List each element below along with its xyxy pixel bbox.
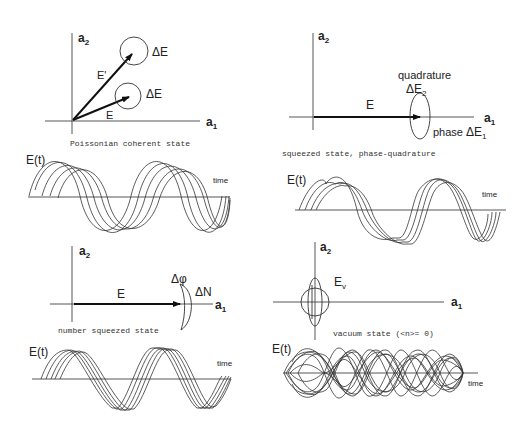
uncertainty-circle-lower — [115, 83, 141, 109]
time-label: time — [482, 190, 498, 199]
ev-label: Ev — [334, 275, 346, 291]
a2-axis-label: a2 — [78, 31, 90, 47]
time-label: time — [213, 176, 229, 185]
a2-axis-label: a2 — [320, 240, 332, 256]
quantum-states-diagram: a2 a1 ΔE E' ΔE E Poissonian coherent sta… — [0, 0, 523, 432]
panel-number-squeezed: a2 a1 E Δφ ΔN number squeezed state E(t)… — [29, 244, 233, 410]
e-label: E — [106, 109, 113, 121]
a1-axis-label: a1 — [451, 295, 463, 311]
vector-e-prime — [73, 54, 132, 120]
e-prime-label: E' — [97, 69, 106, 81]
delta-n-label: ΔN — [195, 285, 212, 299]
e-t-label: E(t) — [272, 342, 291, 356]
delta-e2-label: ΔE2 — [406, 82, 427, 98]
caption-vacuum: vacuum state (<n>= 0) — [333, 329, 434, 338]
a1-axis-label: a1 — [206, 115, 218, 131]
waveform-number-squeezed: E(t) time — [29, 345, 233, 410]
time-label: time — [468, 379, 484, 388]
caption-phase-quadrature: squeezed state, phase-quadrature — [282, 149, 436, 158]
vector-e — [73, 97, 129, 120]
phase-space-plot: a2 a1 E Δφ ΔN — [50, 244, 227, 330]
panel-phase-quadrature: a2 a1 E quadrature ΔE2 phase ΔE1 squeeze… — [282, 29, 506, 244]
waveform-phase-quadrature: E(t) time — [287, 173, 506, 244]
waveform-poissonian: E(t) time — [26, 153, 230, 233]
time-label: time — [217, 359, 233, 368]
phase-space-plot: a2 a1 Ev — [273, 240, 463, 340]
a1-axis-label: a1 — [215, 298, 227, 314]
e-label: E — [366, 98, 374, 112]
e-t-label: E(t) — [29, 345, 48, 359]
a2-axis-label: a2 — [79, 244, 91, 260]
panel-vacuum: a2 a1 Ev vacuum state (<n>= 0) E(t) time — [272, 240, 484, 398]
delta-e-label-lower: ΔE — [146, 87, 162, 101]
phase-delta-e1-label: phase ΔE1 — [433, 125, 487, 141]
phase-space-plot: a2 a1 E quadrature ΔE2 phase ΔE1 — [289, 29, 496, 141]
phase-space-plot: a2 a1 ΔE E' ΔE E — [45, 31, 218, 134]
uncertainty-circle-upper — [120, 37, 148, 65]
number-squeezed-crescent — [180, 284, 191, 330]
waveform-vacuum: E(t) time — [272, 342, 484, 398]
e-label: E — [117, 287, 125, 301]
a1-axis-label: a1 — [484, 111, 496, 127]
delta-phi-label: Δφ — [171, 272, 187, 286]
e-t-label: E(t) — [26, 153, 45, 167]
caption-poissonian: Poissonian coherent state — [70, 139, 190, 148]
quadrature-label: quadrature — [398, 69, 451, 81]
caption-number-squeezed: number squeezed state — [58, 326, 159, 335]
a2-axis-label: a2 — [318, 29, 330, 45]
e-t-label: E(t) — [287, 173, 306, 187]
delta-e-label-upper: ΔE — [152, 45, 168, 59]
panel-poissonian: a2 a1 ΔE E' ΔE E Poissonian coherent sta… — [26, 31, 230, 233]
